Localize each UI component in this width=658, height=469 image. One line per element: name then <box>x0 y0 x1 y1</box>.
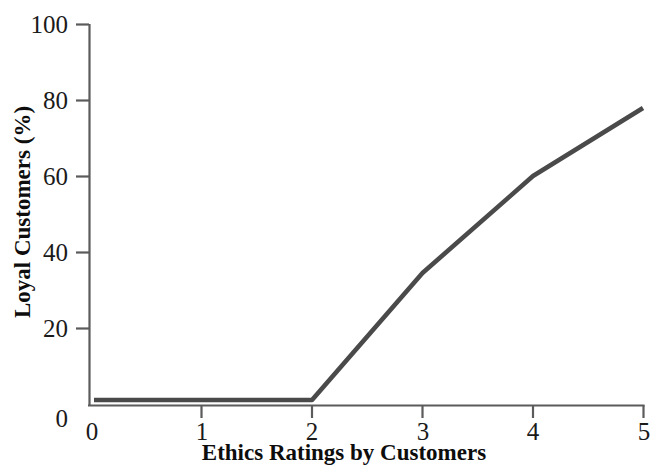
line-chart-plot <box>0 0 658 469</box>
y-tick-label-100: 100 <box>10 12 68 37</box>
x-axis-ticks <box>202 405 644 418</box>
x-axis-title: Ethics Ratings by Customers <box>0 441 658 464</box>
y-axis-ticks <box>76 25 89 329</box>
y-axis-title: Loyal Customers (%) <box>11 106 34 318</box>
data-series-loyal-customers <box>94 108 643 400</box>
y-tick-label-0: 0 <box>10 406 68 431</box>
chart-axes <box>88 24 645 406</box>
chart-figure: 100 80 60 40 20 0 0 1 2 3 4 5 Ethics Rat… <box>0 0 658 469</box>
y-tick-label-20: 20 <box>10 316 68 341</box>
